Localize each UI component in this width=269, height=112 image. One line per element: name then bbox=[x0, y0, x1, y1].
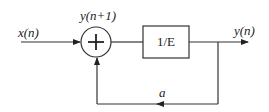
block-diagram: x(n) y(n+1) 1/E y(n) a bbox=[0, 0, 269, 112]
input-label: x(n) bbox=[17, 25, 39, 40]
gain-block-label: 1/E bbox=[157, 34, 175, 49]
output-label: y(n) bbox=[232, 23, 255, 38]
summer-label: y(n+1) bbox=[78, 8, 116, 23]
feedback-label: a bbox=[159, 85, 166, 100]
